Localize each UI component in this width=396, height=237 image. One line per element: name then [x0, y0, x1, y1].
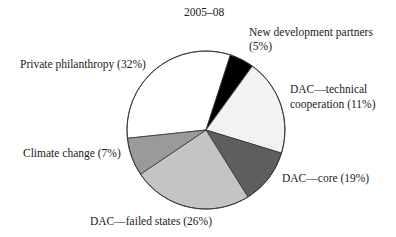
- label-dac-core: DAC—core (19%): [282, 171, 369, 186]
- label-new-development-partners: New development partners: [249, 25, 373, 40]
- label-new-development-partners-pct: (5%): [249, 39, 272, 54]
- chart-title: 2005–08: [184, 5, 224, 20]
- pie-chart: 2005–08 New development partners (5%) Pr…: [0, 0, 396, 237]
- label-climate-change: Climate change (7%): [23, 146, 121, 161]
- label-dac-technical-pct: cooperation (11%): [290, 97, 375, 112]
- label-dac-technical: DAC—technical: [290, 82, 367, 97]
- label-dac-failed-states: DAC—failed states (26%): [90, 214, 212, 229]
- label-private-philanthropy: Private philanthropy (32%): [20, 57, 146, 72]
